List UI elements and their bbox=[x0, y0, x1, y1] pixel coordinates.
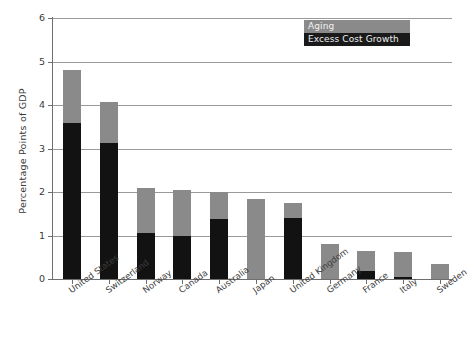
y-tick-label-text: 6 bbox=[25, 13, 45, 23]
y-tick-mark-1 bbox=[48, 236, 53, 237]
bar-segment-aging bbox=[247, 199, 265, 279]
y-tick-label-1: 1 bbox=[25, 231, 45, 241]
bar-group[interactable] bbox=[357, 251, 375, 279]
y-tick-label-4: 4 bbox=[25, 100, 45, 110]
x-axis-label: United States bbox=[67, 288, 72, 295]
legend-item-excess-cost-growth: Excess Cost Growth bbox=[304, 33, 410, 46]
bar-group[interactable] bbox=[210, 192, 228, 279]
bar-segment-excess-cost-growth bbox=[173, 236, 191, 280]
y-tick-mark-5 bbox=[48, 62, 53, 63]
y-tick-mark-6 bbox=[48, 18, 53, 19]
x-axis-label: France bbox=[362, 288, 367, 295]
legend-label-excess-cost-growth: Excess Cost Growth bbox=[308, 35, 399, 44]
y-tick-label-6: 6 bbox=[25, 13, 45, 23]
gridline-5 bbox=[53, 62, 452, 63]
bar-segment-aging bbox=[394, 252, 412, 277]
bar-segment-aging bbox=[284, 203, 302, 218]
y-tick-label-text: 5 bbox=[25, 57, 45, 67]
x-axis-label: Switzerland bbox=[104, 288, 109, 295]
y-tick-label-text: 3 bbox=[25, 144, 45, 154]
x-axis-label: Australia bbox=[215, 288, 220, 295]
x-axis-label: Japan bbox=[251, 288, 256, 295]
bar-group[interactable] bbox=[63, 70, 81, 279]
y-tick-label-5: 5 bbox=[25, 57, 45, 67]
chart-legend: Aging Excess Cost Growth bbox=[304, 20, 410, 46]
x-axis-label: Norway bbox=[141, 288, 146, 295]
bar-segment-excess-cost-growth bbox=[210, 219, 228, 279]
bar-segment-excess-cost-growth bbox=[284, 218, 302, 279]
bar-segment-excess-cost-growth bbox=[63, 123, 81, 279]
y-tick-label-text: 0 bbox=[25, 274, 45, 284]
bar-group[interactable] bbox=[247, 199, 265, 279]
bar-group[interactable] bbox=[284, 203, 302, 279]
gridline-6 bbox=[53, 18, 452, 19]
legend-label-aging: Aging bbox=[308, 22, 334, 31]
bar-group[interactable] bbox=[431, 264, 449, 279]
y-tick-mark-4 bbox=[48, 105, 53, 106]
bar-group[interactable] bbox=[394, 252, 412, 279]
y-tick-label-text: 4 bbox=[25, 100, 45, 110]
bar-segment-aging bbox=[173, 190, 191, 236]
plot-area: 0123456 bbox=[53, 18, 452, 279]
x-axis-label: Sweden bbox=[435, 288, 440, 295]
y-tick-label-text: 2 bbox=[25, 187, 45, 197]
y-tick-label-2: 2 bbox=[25, 187, 45, 197]
bar-segment-aging bbox=[137, 188, 155, 234]
x-axis-label: Canada bbox=[178, 288, 183, 295]
y-tick-label-3: 3 bbox=[25, 144, 45, 154]
y-tick-label-text: 1 bbox=[25, 231, 45, 241]
bar-segment-aging bbox=[63, 70, 81, 123]
stacked-bar-chart: Percentage Points of GDP 0123456 Aging E… bbox=[0, 0, 474, 345]
x-axis-label: United Kingdom bbox=[288, 288, 293, 295]
x-axis-label: Germany bbox=[325, 288, 330, 295]
y-tick-mark-2 bbox=[48, 192, 53, 193]
y-tick-label-0: 0 bbox=[25, 274, 45, 284]
bar-segment-aging bbox=[210, 192, 228, 219]
x-axis-label: Italy bbox=[399, 288, 404, 295]
bar-segment-aging bbox=[100, 102, 118, 143]
legend-item-aging: Aging bbox=[304, 20, 410, 33]
y-tick-mark-3 bbox=[48, 149, 53, 150]
bar-group[interactable] bbox=[173, 190, 191, 279]
bar-segment-aging bbox=[431, 264, 449, 279]
y-tick-mark-0 bbox=[48, 279, 53, 280]
